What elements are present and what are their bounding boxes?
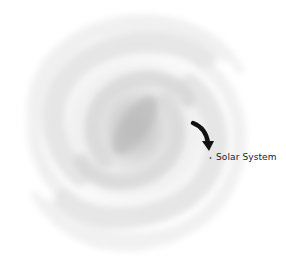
galaxy-core: [87, 73, 183, 183]
spiral-galaxy-graphic: [0, 0, 286, 262]
solar-system-label: Solar System: [216, 152, 277, 162]
solar-system-marker: [210, 157, 212, 159]
galaxy-diagram: Solar System: [0, 0, 286, 262]
